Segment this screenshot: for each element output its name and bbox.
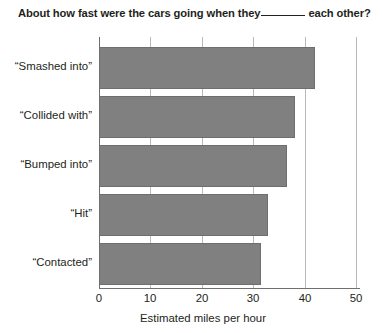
bar-bumped-into[interactable] [99, 145, 287, 187]
chart-title-after-blank: each other? [308, 7, 370, 19]
bar-collided-with[interactable] [99, 96, 295, 138]
chart-title-before-blank: About how fast were the cars going when … [18, 7, 260, 19]
category-label-bumped-into: “Bumped into” [0, 158, 92, 170]
category-label-hit: “Hit” [0, 207, 92, 219]
category-label-collided-with: “Collided with” [0, 109, 92, 121]
xtick-label-30: 30 [233, 292, 273, 304]
plot-area [99, 41, 356, 288]
bar-contacted[interactable] [99, 243, 261, 285]
xtick-label-40: 40 [285, 292, 325, 304]
gridline-50 [356, 37, 357, 288]
bar-hit[interactable] [99, 194, 268, 236]
xtick-label-20: 20 [182, 292, 222, 304]
xtick-label-0: 0 [79, 292, 119, 304]
chart-title: About how fast were the cars going when … [18, 6, 374, 19]
xtick-label-50: 50 [336, 292, 376, 304]
category-label-contacted: “Contacted” [0, 256, 92, 268]
xtick-label-10: 10 [130, 292, 170, 304]
fill-in-blank-line [261, 6, 305, 16]
category-label-smashed-into: “Smashed into” [0, 60, 92, 72]
x-axis-title: Estimated miles per hour [0, 312, 382, 324]
x-axis-line [99, 288, 360, 289]
bar-smashed-into[interactable] [99, 47, 315, 89]
